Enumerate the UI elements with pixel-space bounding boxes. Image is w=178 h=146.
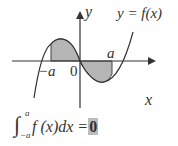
shaded-area-right xyxy=(80,61,112,82)
result-highlight: 0 xyxy=(88,118,98,135)
y-axis-arrow-icon xyxy=(76,11,84,19)
lower-limit: −a xyxy=(20,130,31,140)
neg-a-label: −a xyxy=(38,64,56,79)
a-label: a xyxy=(107,46,115,61)
upper-limit: a xyxy=(25,108,30,118)
integral-formula: ∫ a −a f (x)dx =0 xyxy=(14,112,98,138)
x-axis-arrow-icon xyxy=(148,57,156,65)
x-axis-label: x xyxy=(145,92,152,108)
origin-label: 0 xyxy=(70,64,78,79)
y-axis-label: y xyxy=(85,4,92,20)
curve-label: y = f(x) xyxy=(117,6,162,21)
integrand: f (x)dx = xyxy=(32,118,88,135)
